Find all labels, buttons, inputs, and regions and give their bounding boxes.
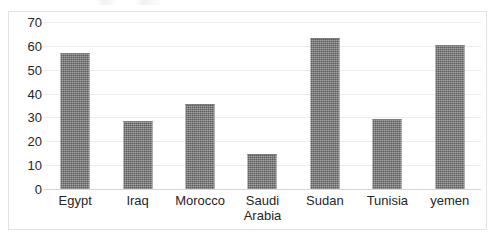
bar[interactable] xyxy=(435,45,464,189)
bar-chart: 706050403020100 EgyptIraqMoroccoSaudi Ar… xyxy=(0,0,496,246)
y-tick-label-40: 40 xyxy=(14,87,42,100)
x-tick-label: Tunisia xyxy=(356,193,418,208)
bar[interactable] xyxy=(310,38,339,189)
y-tick-label-20: 20 xyxy=(14,135,42,148)
y-tick-label-50: 50 xyxy=(14,63,42,76)
bar[interactable] xyxy=(61,53,90,189)
cropped-title-remnant xyxy=(96,0,206,5)
y-tick-label-30: 30 xyxy=(14,111,42,124)
y-tick-label-10: 10 xyxy=(14,159,42,172)
bar[interactable] xyxy=(373,119,402,189)
x-tick-label: Egypt xyxy=(44,193,106,208)
y-tick-label-60: 60 xyxy=(14,39,42,52)
y-axis: 706050403020100 xyxy=(8,11,42,230)
bar[interactable] xyxy=(123,121,152,189)
bar[interactable] xyxy=(248,154,277,189)
y-tick-label-0: 0 xyxy=(14,183,42,196)
bar[interactable] xyxy=(186,104,215,189)
x-tick-label: Morocco xyxy=(169,193,231,208)
x-tick-label: yemen xyxy=(419,193,481,208)
x-tick-label: Sudan xyxy=(294,193,356,208)
x-axis: EgyptIraqMoroccoSaudi ArabiaSudanTunisia… xyxy=(44,193,481,243)
x-tick-label: Saudi Arabia xyxy=(231,193,293,223)
x-tick-label: Iraq xyxy=(106,193,168,208)
y-tick-label-70: 70 xyxy=(14,16,42,29)
